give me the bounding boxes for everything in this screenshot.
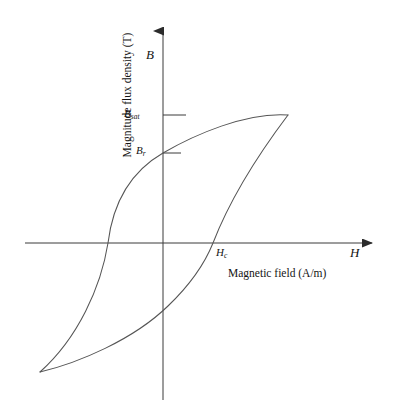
hysteresis-figure: B H Bsat Br Hc Magnetic field (A/m) Magn…: [0, 0, 398, 406]
y-axis-symbol: B: [146, 48, 154, 61]
tick-label-b-r-subscript: r: [143, 149, 146, 158]
tick-label-b-r-base: B: [136, 144, 143, 156]
point-label-h-c: Hc: [216, 247, 227, 259]
x-axis-title: Magnetic field (A/m): [228, 268, 326, 280]
point-label-h-c-subscript: c: [224, 251, 227, 260]
point-label-h-c-base: H: [216, 246, 224, 258]
tick-label-b-r: Br: [136, 145, 146, 157]
hysteresis-plot-svg: [0, 0, 398, 406]
y-axis-title: Magnitude flux density (T): [121, 33, 133, 158]
x-axis-symbol: H: [350, 246, 359, 259]
